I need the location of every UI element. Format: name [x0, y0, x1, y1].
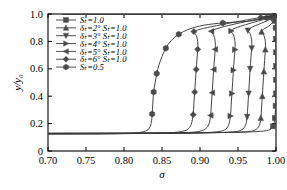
- y-tick-label: 0.2: [30, 118, 43, 129]
- data-marker-square: [274, 50, 279, 55]
- x-tick-label: 0.80: [115, 155, 133, 166]
- y-tick-label: 0.6: [30, 63, 43, 74]
- data-marker-square: [64, 18, 69, 23]
- legend-label: Sₜ=0.5: [80, 62, 105, 72]
- x-tick-label: 0.70: [39, 155, 57, 166]
- y-tick-label: 1.0: [30, 9, 43, 20]
- data-marker-square: [270, 124, 275, 129]
- data-marker-hexagon: [220, 20, 225, 26]
- chart-figure: 0.700.750.800.850.900.951.0000.20.40.60.…: [0, 0, 287, 190]
- data-marker-square: [274, 36, 279, 41]
- data-marker-hexagon: [176, 31, 181, 37]
- data-marker-hexagon: [154, 71, 159, 77]
- data-marker-hexagon: [150, 111, 155, 117]
- data-marker-square: [273, 25, 278, 30]
- y-tick-labels: 00.20.40.60.81.0: [30, 9, 44, 157]
- data-marker-hexagon: [163, 45, 168, 51]
- line-chart-svg: 0.700.750.800.850.900.951.0000.20.40.60.…: [0, 0, 287, 190]
- y-tick-label: 0.8: [30, 36, 43, 47]
- data-marker-square: [274, 91, 279, 96]
- data-marker-hexagon: [63, 64, 68, 70]
- x-tick-label: 0.90: [191, 155, 209, 166]
- data-marker-hexagon: [151, 89, 156, 95]
- x-tick-label: 0.95: [229, 155, 247, 166]
- data-marker-square: [273, 103, 278, 108]
- data-marker-square: [274, 77, 279, 82]
- x-tick-label: 0.85: [153, 155, 171, 166]
- y-tick-label: 0: [38, 146, 43, 157]
- x-tick-label: 1.00: [267, 155, 285, 166]
- y-tick-label: 0.4: [30, 91, 44, 102]
- x-axis-label: σ: [159, 168, 165, 180]
- x-tick-labels: 0.700.750.800.850.900.951.00: [39, 155, 285, 166]
- data-marker-square: [274, 64, 279, 69]
- y-axis-label: y/y₀: [11, 74, 23, 92]
- x-tick-label: 0.75: [77, 155, 95, 166]
- data-marker-square: [272, 116, 277, 121]
